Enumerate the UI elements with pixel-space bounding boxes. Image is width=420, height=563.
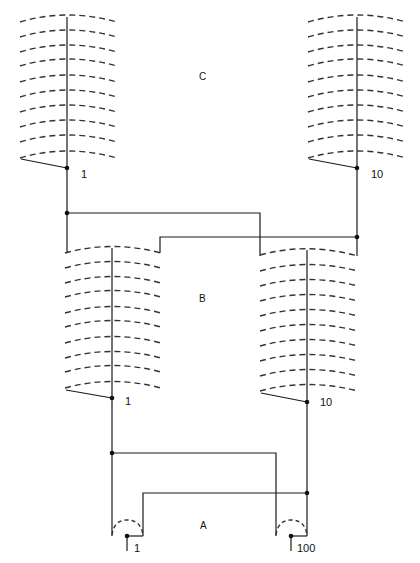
junction-dot	[355, 235, 360, 240]
circuit-diagram: 1 10 C	[0, 0, 420, 563]
terminal-label: 1	[81, 168, 87, 180]
contact-a-right: 100	[276, 520, 315, 554]
junction-dot	[305, 491, 310, 496]
coil-rungs	[260, 249, 358, 391]
coil-c-right: 10	[308, 15, 406, 237]
interconnect-b-a	[110, 451, 310, 536]
terminal-label: 10	[320, 396, 332, 408]
terminal-label: 100	[297, 542, 315, 554]
terminal-dot	[289, 534, 294, 539]
terminal-dot	[305, 400, 310, 405]
terminal-label: 1	[134, 542, 140, 554]
coil-rungs	[65, 247, 161, 389]
stage-label-c: C	[199, 71, 206, 82]
terminal-label: 10	[371, 168, 383, 180]
terminal-label: 1	[125, 395, 131, 407]
stage-label-a: A	[200, 520, 207, 531]
coil-b-left: 1	[65, 247, 161, 454]
coil-c-left: 1	[20, 15, 117, 213]
terminal-dot	[65, 166, 70, 171]
terminal-dot	[355, 166, 360, 171]
stage-label-b: B	[199, 293, 206, 304]
terminal-dot	[125, 534, 130, 539]
coil-rungs	[20, 15, 117, 158]
junction-dot	[110, 451, 115, 456]
junction-dot	[65, 211, 70, 216]
terminal-dot	[110, 396, 115, 401]
contact-a-left: 1	[112, 520, 143, 554]
